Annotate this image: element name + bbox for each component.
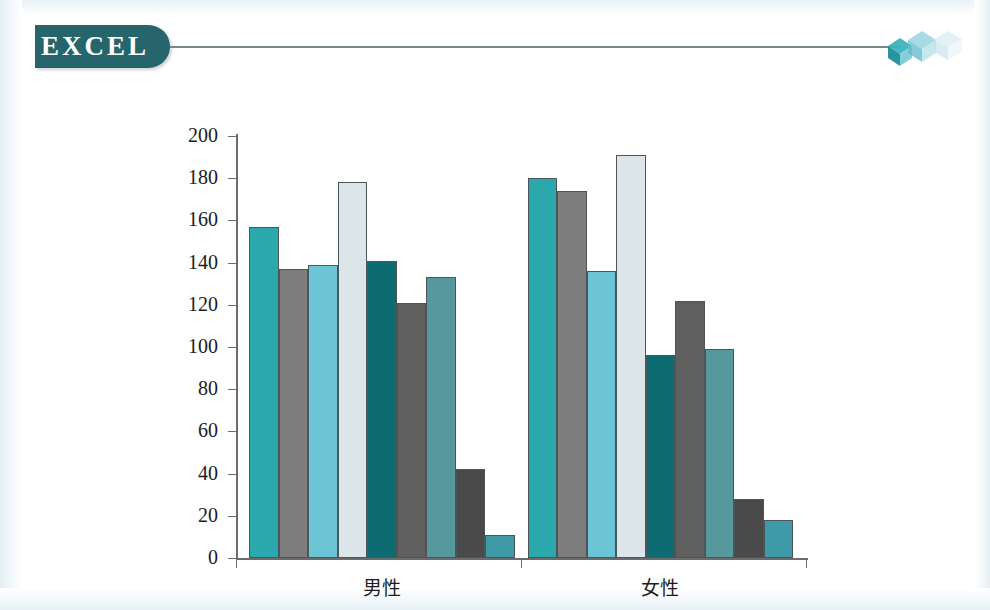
y-axis-tick-label-wrap: 80 (166, 389, 218, 390)
y-axis-tick-label: 160 (168, 208, 218, 231)
y-axis-tick-label: 0 (168, 546, 218, 569)
bar (734, 499, 764, 558)
bar-chart: 020406080100120140160180200 男性女性 (0, 95, 990, 610)
y-axis-tick-label-wrap: 140 (166, 263, 218, 264)
y-axis-tick-label-wrap: 60 (166, 431, 218, 432)
y-axis-tick-label: 140 (168, 251, 218, 274)
y-axis-tick-label-wrap: 120 (166, 305, 218, 306)
y-axis-tick-label: 60 (168, 419, 218, 442)
y-axis-tick-label: 200 (168, 124, 218, 147)
excel-badge-label: EXCEL (35, 25, 155, 68)
bar (279, 269, 309, 558)
bar (456, 469, 486, 558)
bar (338, 182, 368, 558)
x-axis-category-label: 女性 (600, 573, 720, 600)
bar (397, 303, 427, 558)
bar (764, 520, 794, 558)
bar (557, 191, 587, 558)
x-axis-tick (236, 559, 237, 568)
y-axis-tick-label: 180 (168, 166, 218, 189)
excel-badge: EXCEL (35, 25, 170, 68)
bar (616, 155, 646, 558)
x-axis-tick (521, 559, 522, 568)
bar (646, 355, 676, 558)
x-axis-line (236, 558, 808, 560)
bar (587, 271, 617, 558)
bar (249, 227, 279, 558)
bar (675, 301, 705, 558)
page-header: EXCEL (0, 0, 990, 95)
bar (308, 265, 338, 558)
bar (426, 277, 456, 558)
plot-area (236, 136, 806, 558)
y-axis-tick-label-wrap: 40 (166, 474, 218, 475)
x-axis-tick (806, 559, 807, 568)
x-axis-category-label: 男性 (322, 573, 442, 600)
page-root: EXCEL (0, 0, 990, 610)
bar (705, 349, 735, 558)
cube-cluster-icon (880, 22, 975, 68)
bar (485, 535, 515, 558)
y-axis-tick-label: 80 (168, 377, 218, 400)
bar (367, 261, 397, 559)
y-axis-tick-label-wrap: 180 (166, 178, 218, 179)
y-axis-tick-label: 20 (168, 504, 218, 527)
header-rule (170, 46, 900, 48)
bar-series-container (236, 136, 806, 558)
y-axis-tick-label: 100 (168, 335, 218, 358)
y-axis-tick-label-wrap: 100 (166, 347, 218, 348)
bar (528, 178, 558, 558)
y-axis-tick-label: 40 (168, 462, 218, 485)
y-axis-tick-label-wrap: 160 (166, 220, 218, 221)
y-axis-tick-label: 120 (168, 293, 218, 316)
y-axis-tick-label-wrap: 0 (166, 558, 218, 559)
y-axis-tick-label-wrap: 200 (166, 136, 218, 137)
y-axis-tick-label-wrap: 20 (166, 516, 218, 517)
